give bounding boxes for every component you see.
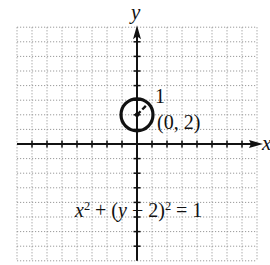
y-axis-label: y [131, 2, 140, 23]
coordinate-plane [0, 0, 270, 265]
x-axis-arrowhead-icon [249, 140, 263, 148]
equation-rhs: = 1 [171, 199, 202, 221]
radius-label: 1 [155, 86, 165, 106]
equation-y-exponent: 2 [165, 199, 171, 213]
equation-x-exponent: 2 [84, 199, 90, 213]
equation-x-variable: x [75, 199, 84, 221]
center-point-label: (0, 2) [157, 112, 200, 132]
equation-minus: − 2) [127, 199, 165, 221]
x-axis-label: x [262, 133, 270, 154]
equation-plus: + ( [90, 199, 118, 221]
axes [17, 25, 263, 261]
coordinate-plane-figure: y x 1 (0, 2) x2 + (y − 2)2 = 1 [0, 0, 270, 265]
radius-segment [137, 105, 147, 115]
circle-equation: x2 + (y − 2)2 = 1 [75, 200, 202, 220]
equation-y-variable: y [118, 199, 127, 221]
